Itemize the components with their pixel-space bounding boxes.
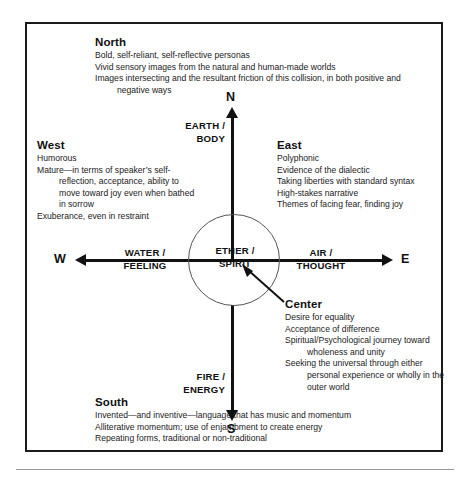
section-center-line: Spiritual/Psychological journey toward w…	[285, 335, 445, 358]
section-east-line: High-stakes narrative	[277, 188, 445, 200]
east-arrowhead	[382, 254, 393, 266]
section-south-line: Repeating forms, traditional or non-trad…	[95, 433, 415, 445]
diagram-frame: N S W E EARTH / BODY FIRE / ENERGY WATER…	[25, 22, 443, 452]
section-center-line: Desire for equality	[285, 312, 445, 324]
cardinal-west: W	[54, 252, 66, 266]
diagram-page: N S W E EARTH / BODY FIRE / ENERGY WATER…	[0, 0, 466, 477]
east-element-label: AIR / THOUGHT	[277, 247, 365, 272]
section-east-line: Polyphonic	[277, 153, 445, 165]
section-south-line: Invented—and inventive—language that has…	[95, 410, 415, 422]
section-north-line: Vivid sensory images from the natural an…	[95, 62, 405, 74]
section-south-heading: South	[95, 396, 415, 408]
section-east: East Polyphonic Evidence of the dialecti…	[277, 139, 445, 211]
cardinal-east: E	[401, 252, 410, 266]
section-north-line: Bold, self-reliant, self-reflective pers…	[95, 50, 405, 62]
west-arrowhead	[75, 254, 86, 266]
section-center-line: Acceptance of difference	[285, 324, 445, 336]
section-east-heading: East	[277, 139, 445, 151]
section-west-line: Exuberance, even in restraint	[37, 211, 197, 223]
section-center-line: Seeking the universal through either per…	[285, 358, 445, 393]
section-west-line: Mature—in terms of speaker’s self-reflec…	[37, 165, 197, 211]
section-north-line: Images intersecting and the resultant fr…	[95, 73, 405, 96]
bottom-divider	[16, 469, 454, 470]
section-north-heading: North	[95, 36, 405, 48]
section-center: Center Desire for equality Acceptance of…	[285, 298, 445, 393]
center-pointer-arrow	[240, 264, 288, 306]
section-west: West Humorous Mature—in terms of speaker…	[37, 139, 197, 223]
section-south: South Invented—and inventive—language th…	[95, 396, 415, 445]
section-east-line: Themes of facing fear, finding joy	[277, 199, 445, 211]
south-element-label: FIRE / ENERGY	[155, 371, 225, 396]
north-arrowhead	[226, 107, 238, 118]
section-south-line: Alliterative momentum; use of enjambment…	[95, 422, 415, 434]
section-west-line: Humorous	[37, 153, 197, 165]
section-west-heading: West	[37, 139, 197, 151]
section-center-heading: Center	[285, 298, 445, 310]
section-north: North Bold, self-reliant, self-reflectiv…	[95, 36, 405, 96]
west-element-label: WATER / FEELING	[103, 247, 187, 272]
section-east-line: Taking liberties with standard syntax	[277, 176, 445, 188]
section-east-line: Evidence of the dialectic	[277, 165, 445, 177]
